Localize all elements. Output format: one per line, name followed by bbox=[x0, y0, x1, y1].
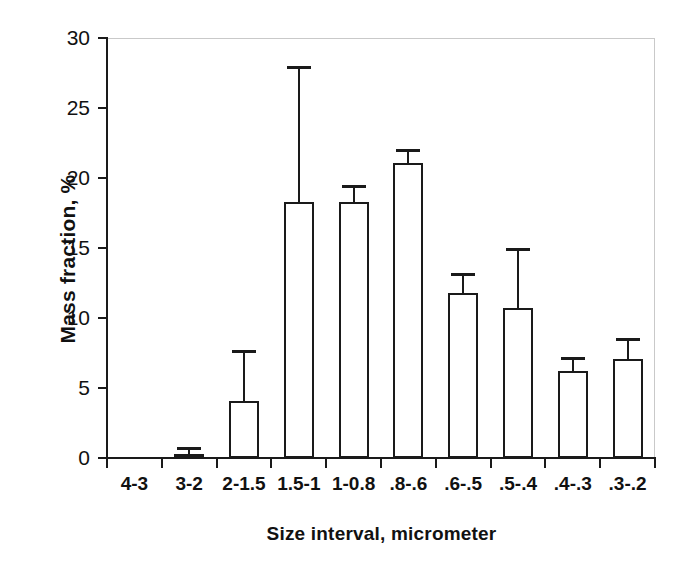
bar bbox=[284, 202, 314, 458]
chart-figure: Mass fraction, % 051015202530 4-33-22-1.… bbox=[0, 0, 689, 577]
y-axis-tick-label: 5 bbox=[32, 376, 90, 400]
bar bbox=[448, 293, 478, 458]
error-bar-cap bbox=[396, 149, 420, 152]
x-axis-tick-label: 1-0.8 bbox=[332, 473, 375, 495]
x-axis-tick bbox=[599, 458, 601, 468]
error-bar-stem bbox=[627, 338, 629, 359]
error-bar-cap bbox=[451, 273, 475, 276]
y-axis-tick-label: 0 bbox=[32, 446, 90, 470]
x-axis-tick bbox=[106, 458, 108, 468]
bar bbox=[613, 359, 643, 458]
bar bbox=[339, 202, 369, 458]
error-bar-stem bbox=[298, 66, 300, 202]
y-axis-tick-label: 10 bbox=[32, 306, 90, 330]
y-axis-tick-labels: 051015202530 bbox=[28, 0, 90, 577]
error-bar-cap bbox=[232, 350, 256, 353]
x-axis-tick-label: 4-3 bbox=[121, 473, 148, 495]
bar bbox=[229, 401, 259, 458]
x-axis-tick-label: .4-.3 bbox=[554, 473, 592, 495]
x-axis-tick-label: 3-2 bbox=[175, 473, 202, 495]
y-axis-tick-label: 25 bbox=[32, 96, 90, 120]
error-bar-cap bbox=[287, 66, 311, 69]
y-axis-tick bbox=[98, 317, 107, 319]
bar bbox=[119, 457, 149, 459]
x-axis-tick-label: .3-.2 bbox=[609, 473, 647, 495]
x-axis-tick-label: 2-1.5 bbox=[222, 473, 265, 495]
x-axis-tick bbox=[490, 458, 492, 468]
x-axis-tick bbox=[216, 458, 218, 468]
x-axis-tick-label: .6-.5 bbox=[444, 473, 482, 495]
y-axis-tick bbox=[98, 37, 107, 39]
bar bbox=[503, 308, 533, 458]
y-axis-tick bbox=[98, 387, 107, 389]
error-bar-cap bbox=[342, 185, 366, 188]
y-axis-tick bbox=[98, 107, 107, 109]
error-bar-cap bbox=[616, 338, 640, 341]
error-bar-cap bbox=[177, 447, 201, 450]
y-axis-tick-label: 20 bbox=[32, 166, 90, 190]
x-axis-tick bbox=[544, 458, 546, 468]
bar bbox=[393, 163, 423, 458]
x-axis-tick bbox=[435, 458, 437, 468]
x-axis-tick-label: .5-.4 bbox=[499, 473, 537, 495]
x-axis-title: Size interval, micrometer bbox=[107, 523, 656, 545]
error-bar-cap bbox=[506, 248, 530, 251]
x-axis-tick-label: .8-.6 bbox=[389, 473, 427, 495]
y-axis-tick bbox=[98, 177, 107, 179]
bar bbox=[558, 371, 588, 458]
y-axis-tick bbox=[98, 247, 107, 249]
x-axis-tick bbox=[380, 458, 382, 468]
x-axis-tick bbox=[654, 458, 656, 468]
bar bbox=[174, 454, 204, 458]
x-axis-tick bbox=[325, 458, 327, 468]
error-bar-stem bbox=[517, 248, 519, 308]
x-axis-tick-label: 1.5-1 bbox=[277, 473, 320, 495]
error-bar-cap bbox=[561, 357, 585, 360]
error-bar-stem bbox=[243, 350, 245, 400]
y-axis-tick-label: 30 bbox=[32, 26, 90, 50]
x-axis-tick bbox=[161, 458, 163, 468]
x-axis-tick bbox=[270, 458, 272, 468]
y-axis-tick-label: 15 bbox=[32, 236, 90, 260]
